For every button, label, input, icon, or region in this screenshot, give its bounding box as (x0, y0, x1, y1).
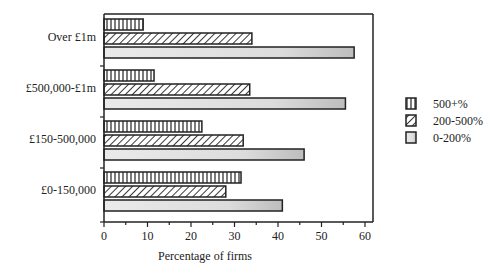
bar (104, 149, 304, 160)
legend-swatch (406, 132, 416, 143)
bar (104, 186, 226, 197)
x-tick-label: 20 (185, 229, 197, 243)
x-axis-label: Percentage of firms (158, 249, 252, 263)
x-tick-label: 50 (316, 229, 328, 243)
bar (104, 84, 250, 95)
bar (104, 172, 241, 183)
legend-swatch (406, 115, 416, 126)
bar (104, 70, 154, 81)
bar (104, 200, 282, 211)
bar-chart: Over £1m£500,000-£1m£150-500,000£0-150,0… (0, 0, 504, 272)
category-label: Over £1m (48, 30, 97, 44)
bar (104, 98, 345, 109)
legend-label: 500+% (433, 97, 468, 111)
x-tick-label: 0 (101, 229, 107, 243)
legend-label: 200-500% (433, 114, 483, 128)
bar (104, 33, 252, 44)
category-label: £0-150,000 (41, 183, 96, 197)
bar (104, 135, 243, 146)
legend: 500+%200-500%0-200% (406, 97, 483, 145)
y-axis: Over £1m£500,000-£1m£150-500,000£0-150,0… (26, 14, 104, 222)
category-label: £500,000-£1m (26, 81, 97, 95)
x-axis: 0102030405060 (101, 222, 373, 243)
legend-label: 0-200% (433, 131, 471, 145)
bar (104, 47, 354, 58)
x-tick-label: 10 (142, 229, 154, 243)
x-tick-label: 40 (272, 229, 284, 243)
bars (104, 19, 354, 211)
bar (104, 121, 202, 132)
x-tick-label: 30 (229, 229, 241, 243)
category-label: £150-500,000 (29, 132, 96, 146)
bar (104, 19, 143, 30)
legend-swatch (406, 98, 416, 109)
x-tick-label: 60 (359, 229, 371, 243)
